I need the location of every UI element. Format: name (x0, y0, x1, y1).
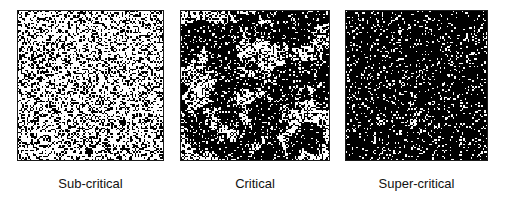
lattice-bitmap-sub-critical (18, 11, 163, 160)
lattice-bitmap-critical (181, 11, 329, 160)
caption-super-critical: Super-critical (345, 176, 488, 192)
panel-critical (180, 10, 330, 161)
panel-sub-critical (17, 10, 164, 161)
caption-sub-critical: Sub-critical (17, 176, 164, 192)
caption-critical: Critical (180, 176, 330, 192)
percolation-figure: Sub-critical Critical Super-critical (0, 0, 507, 210)
panel-super-critical (345, 10, 488, 161)
lattice-bitmap-super-critical (346, 11, 487, 160)
